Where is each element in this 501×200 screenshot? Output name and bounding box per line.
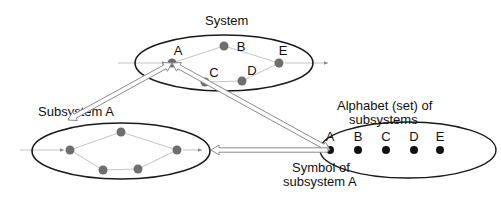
alphabet-symbol-label: D: [409, 129, 418, 144]
symbol-a-to-subsystem-a-shape: [211, 145, 328, 155]
system-state-d: [238, 77, 247, 86]
alphabet-symbol-label: C: [381, 129, 390, 144]
system-title: System: [205, 13, 248, 28]
alphabet-symbol-label: E: [436, 129, 445, 144]
subsystem-edge: [70, 150, 103, 170]
subsystem-state: [134, 165, 143, 174]
system-edges: [172, 46, 279, 82]
alphabet-title-line2: subsystems: [349, 112, 418, 127]
subsystem-state: [99, 166, 108, 175]
system-edge: [224, 46, 279, 63]
subsystem-nodes: [66, 128, 182, 175]
subsystem-edges: [70, 132, 177, 170]
system-state-label: C: [209, 65, 218, 80]
system-group: ABCDE System: [118, 13, 328, 91]
system-a-to-subsystem-a: [68, 63, 172, 121]
alphabet-symbol-c: [382, 146, 390, 154]
system-state-b: [220, 42, 229, 51]
system-state-e: [275, 59, 284, 68]
diagram-canvas: ABCDE System Subsystem A ABCDE Alphabet …: [0, 0, 501, 200]
alphabet-symbol-label: B: [354, 129, 363, 144]
system-nodes: ABCDE: [168, 39, 288, 87]
system-a-to-subsystem-a-shape: [68, 63, 172, 121]
alphabet-symbols: ABCDE: [326, 129, 445, 154]
subsystem-edge: [121, 132, 177, 150]
alphabet-symbol-e: [436, 146, 444, 154]
alphabet-symbol-label: A: [326, 129, 335, 144]
subsystem-edge: [103, 169, 138, 170]
alphabet-title-line1: Alphabet (set) of: [337, 98, 433, 113]
system-state-label: D: [247, 63, 256, 78]
subsystem-state: [66, 146, 75, 155]
subsystem-a-group: Subsystem A: [20, 104, 210, 179]
alphabet-symbol-b: [354, 146, 362, 154]
subsystem-state: [117, 128, 126, 137]
subsystem-state: [173, 146, 182, 155]
alphabet-symbol-d: [410, 146, 418, 154]
subsystem-edge: [70, 132, 121, 150]
system-state-label: B: [237, 39, 246, 54]
subsystem-edge: [138, 150, 177, 169]
system-state-label: E: [279, 43, 288, 58]
symbol-annotation-line2: subsystem A: [283, 174, 357, 189]
symbol-a-to-subsystem-a: [211, 145, 328, 155]
system-state-label: A: [174, 43, 183, 58]
symbol-annotation-line1: Symbol of: [292, 160, 350, 175]
